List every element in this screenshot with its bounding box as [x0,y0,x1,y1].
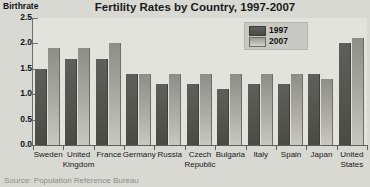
fertility-rates-bar-chart: Fertility Rates by Country, 1997-2007 Bi… [0,0,370,187]
bar-1997 [96,59,108,145]
bar-2007 [78,48,90,145]
bar-1997 [156,84,168,145]
bar-group [215,18,245,145]
legend-swatch-1997 [249,26,266,36]
bar-group [306,18,336,145]
bar-1997 [339,43,351,145]
bar-1997 [308,74,320,145]
legend-swatch-2007 [249,37,266,47]
x-axis-labels: SwedenUnitedKingdomFranceGermanyRussiaCz… [33,150,367,174]
bar-1997 [126,74,138,145]
bar-group [337,18,367,145]
y-tick-label: 2.5 [0,12,32,23]
bar-group [33,18,63,145]
bar-1997 [248,84,260,145]
bar-2007 [230,74,242,145]
legend: 1997 2007 [244,22,308,50]
y-tick-label: 0.5 [0,114,32,125]
bar-2007 [321,79,333,145]
y-tick-label: 1.5 [0,63,32,74]
y-tick-label: 0.0 [0,139,32,150]
bar-2007 [352,38,364,145]
bar-2007 [261,74,273,145]
bar-group [94,18,124,145]
bars-layer [33,18,367,145]
bar-2007 [291,74,303,145]
x-axis-line [32,145,368,146]
bar-2007 [169,74,181,145]
bar-2007 [139,74,151,145]
bar-group [154,18,184,145]
source-note: Source: Population Reference Bureau [4,176,139,185]
bar-1997 [35,69,47,145]
y-tick-label: 2.0 [0,37,32,48]
legend-label-2007: 2007 [269,36,288,46]
chart-title: Fertility Rates by Country, 1997-2007 [55,1,335,13]
y-axis-label: Birthrate [3,1,38,11]
bar-2007 [48,48,60,145]
bar-1997 [217,89,229,145]
bar-1997 [187,84,199,145]
bar-2007 [109,43,121,145]
bar-1997 [278,84,290,145]
bar-group [124,18,154,145]
bar-2007 [200,74,212,145]
bar-group [63,18,93,145]
x-tick-label: UnitedStates [331,150,370,169]
bar-1997 [65,59,77,145]
y-tick-label: 1.0 [0,88,32,99]
legend-label-1997: 1997 [269,25,288,35]
bar-group [185,18,215,145]
